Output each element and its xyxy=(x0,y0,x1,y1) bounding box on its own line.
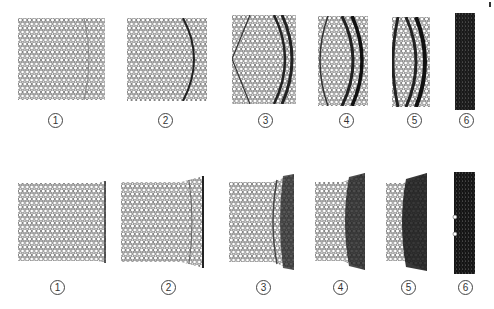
top-stage-3-lattice xyxy=(232,15,296,104)
bottom-stage-5-lattice xyxy=(386,173,427,271)
bottom-stage-6-lattice xyxy=(452,172,475,274)
bottom-stage-2-label: 2 xyxy=(161,280,176,295)
bottom-stage-4-lattice xyxy=(315,173,365,270)
bottom-stage-3-label: 3 xyxy=(256,280,271,295)
top-stage-6-label: 6 xyxy=(459,113,474,128)
top-stage-6-lattice xyxy=(455,13,475,110)
bottom-stage-3-lattice xyxy=(229,174,294,270)
bottom-stage-1-lattice xyxy=(18,181,106,263)
top-stage-2-lattice xyxy=(127,18,207,101)
top-stage-1-lattice xyxy=(18,18,105,100)
top-stage-3-label: 3 xyxy=(258,113,273,128)
top-stage-5-lattice xyxy=(392,17,430,107)
top-stage-5-label: 5 xyxy=(407,113,422,128)
bottom-stage-5-label: 5 xyxy=(401,280,416,295)
corner-tick-mark xyxy=(489,2,491,7)
bottom-stage-6-label: 6 xyxy=(458,280,473,295)
top-stage-2-label: 2 xyxy=(158,113,173,128)
bottom-stage-4-label: 4 xyxy=(333,280,348,295)
bottom-stage-1-label: 1 xyxy=(50,280,65,295)
figure-canvas: 1 2 3 4 5 6 xyxy=(0,0,494,309)
top-stage-1-label: 1 xyxy=(48,113,63,128)
top-stage-4-label: 4 xyxy=(339,113,354,128)
top-stage-4-lattice xyxy=(318,16,368,106)
bottom-stage-2-lattice xyxy=(121,176,204,268)
